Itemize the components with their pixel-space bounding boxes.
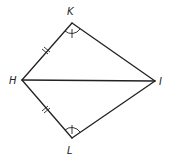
segment-il xyxy=(72,81,155,138)
vertex-label-i: I xyxy=(159,76,162,87)
segment-hk xyxy=(22,23,72,80)
segment-hi xyxy=(22,80,155,81)
vertex-label-k: K xyxy=(67,6,75,17)
kite-diagram: K H I L xyxy=(0,0,173,162)
angle-arc-k-icon xyxy=(65,29,80,38)
segment-lh xyxy=(22,80,72,138)
vertex-label-l: L xyxy=(67,145,73,156)
vertex-label-h: H xyxy=(9,75,17,86)
segment-ki xyxy=(72,23,155,81)
